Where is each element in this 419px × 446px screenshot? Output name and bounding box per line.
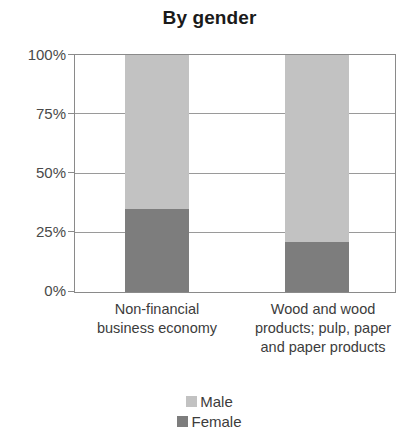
chart-legend: Male Female — [0, 391, 419, 431]
legend-swatch-female-icon — [177, 416, 188, 427]
y-axis-tick-label-50: 50% — [6, 165, 66, 180]
x-axis-category-label-1: Wood and woodproducts; pulp, paperand pa… — [228, 300, 418, 357]
legend-label-female: Female — [191, 414, 241, 429]
legend-swatch-male-icon — [186, 396, 197, 407]
y-axis-tick-label-25: 25% — [6, 224, 66, 239]
x-axis-category-label-0: Non-financialbusiness economy — [66, 300, 248, 338]
chart-container: By gender 100% 75% 50% 25% 0% Non-financ… — [0, 0, 419, 446]
bar-segment-male[interactable] — [285, 55, 349, 242]
bar-segment-male[interactable] — [125, 55, 189, 209]
y-axis-tick-label-75: 75% — [6, 106, 66, 121]
y-axis-tick-label-100: 100% — [6, 47, 66, 62]
legend-item-female[interactable]: Female — [177, 411, 241, 431]
bar-segment-female[interactable] — [125, 209, 189, 292]
legend-item-male[interactable]: Male — [186, 391, 233, 411]
bar-group-non-financial-business-economy[interactable] — [125, 55, 189, 292]
bar-segment-female[interactable] — [285, 242, 349, 292]
legend-label-male: Male — [200, 394, 233, 409]
chart-title: By gender — [0, 7, 419, 29]
bar-group-wood-and-wood-products[interactable] — [285, 55, 349, 292]
y-axis-tick-label-0: 0% — [6, 283, 66, 298]
plot-area — [74, 54, 396, 293]
